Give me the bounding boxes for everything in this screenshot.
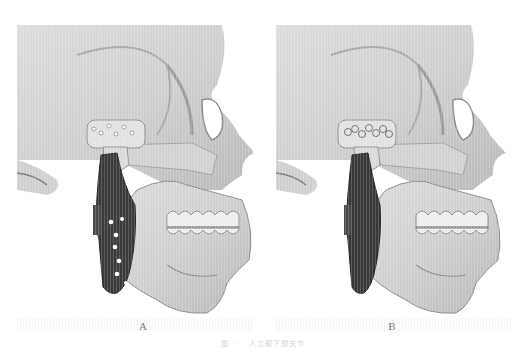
skull-rendering-a xyxy=(17,25,253,315)
panel-label-b: B xyxy=(382,320,402,332)
panel-label-a: A xyxy=(133,320,153,332)
figure-caption: 图 · · · 人工颞下颌关节 xyxy=(0,338,526,348)
skull-rendering-b xyxy=(276,25,512,315)
skull-panel-a xyxy=(17,25,253,315)
skull-panel-b xyxy=(276,25,512,315)
